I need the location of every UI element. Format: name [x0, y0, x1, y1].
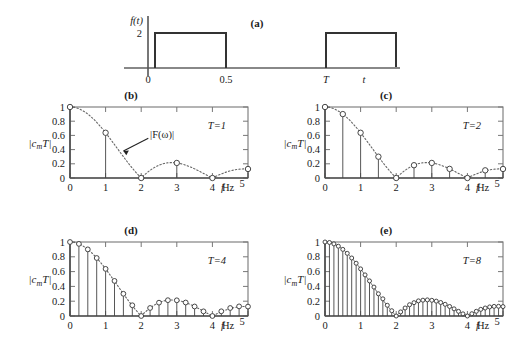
panel-c-xtick-label: 0 [322, 182, 327, 193]
panel-d-ytick-label: 0 [60, 311, 65, 322]
panel-e-ylabel: |cmT| [284, 273, 307, 288]
panel-a-xtick-T: T [323, 74, 330, 85]
panel-d-data-point [201, 309, 206, 314]
envelope-callout-arrowhead [123, 151, 128, 156]
panel-e-xtick-label: 3 [429, 320, 434, 331]
panel-a-amplitude-label: 2 [137, 28, 142, 39]
panel-e-data-point [430, 298, 434, 302]
panel-e-data-point [425, 298, 429, 302]
panel-e-data-point [408, 303, 412, 307]
panel-c-data-point [483, 168, 488, 173]
panel-e-data-point [385, 303, 389, 307]
panel-b-ylabel: |cmT| [29, 137, 52, 152]
panel-c-label: (c) [380, 89, 393, 102]
panel-e-data-point [465, 314, 469, 318]
panel-b-data-point [139, 175, 144, 180]
panel-c-xtick-label-5: 5 [494, 178, 499, 189]
panel-e-data-point [457, 309, 461, 313]
panel-d-data-point [219, 309, 224, 314]
panel-c-xtick-label: 1 [358, 182, 363, 193]
panel-a-xtick-0: 0 [145, 74, 150, 85]
panel-b-xaxis-unit: Hz [222, 182, 235, 193]
panel-a-pulse-second [326, 33, 396, 68]
panel-d-data-point [77, 241, 82, 246]
panel-e-xtick-label-5: 5 [494, 316, 499, 327]
panel-a-xtick-0p5: 0.5 [219, 74, 232, 85]
panel-e-data-point [332, 242, 336, 246]
panel-c-data-point [465, 175, 470, 180]
panel-b-data-point [210, 175, 215, 180]
panel-e-data-point [461, 312, 465, 316]
panel-b-ytick-label: 0 [60, 173, 65, 184]
panel-e-data-point [483, 306, 487, 310]
panel-d-data-point [148, 306, 153, 311]
panel-b-xtick-label: 2 [139, 182, 144, 193]
panel-e-xtick-label: 0 [322, 320, 327, 331]
panel-c-data-point [358, 130, 363, 135]
panel-b-ytick-label: 0.4 [52, 144, 66, 155]
panel-a-ylabel: f(t) [130, 15, 143, 27]
panel-c-xtick-label: 4 [465, 182, 471, 193]
panel-d-data-point [112, 279, 117, 284]
panel-b-ytick-label: 0.8 [52, 116, 65, 127]
panel-e-data-point [372, 285, 376, 289]
panel-c-data-point [340, 111, 345, 116]
panel-b-ytick-label: 0.2 [52, 158, 65, 169]
panel-c-data-point [500, 166, 505, 171]
panel-e-ytick-label: 0.8 [307, 251, 320, 262]
panel-e-data-point [376, 292, 380, 296]
panel-c-ytick-label: 1 [315, 102, 320, 113]
panel-d-ytick-label: 0.4 [52, 281, 66, 292]
panel-d-data-point [103, 266, 108, 271]
panel-e-data-point [327, 240, 331, 244]
panel-b-data-point [67, 104, 72, 109]
panel-e-data-point [421, 298, 425, 302]
panel-d-label: (d) [124, 224, 138, 237]
panel-e-data-point [501, 305, 505, 309]
panel-d-data-point [166, 298, 171, 303]
panel-a-label: (a) [251, 17, 264, 30]
panel-b-data-point [174, 160, 179, 165]
panel-d-ytick-label: 0.2 [52, 296, 65, 307]
panel-e-data-point [416, 299, 420, 303]
panel-d-ytick-label: 1 [60, 237, 65, 248]
panel-e-data-point [368, 279, 372, 283]
panel-c-xaxis-unit: Hz [477, 182, 490, 193]
panel-e-data-point [381, 297, 385, 301]
panel-b-xtick-label: 4 [210, 182, 216, 193]
panel-e-xtick-label: 2 [394, 320, 399, 331]
panel-e-xtick-label: 1 [358, 320, 363, 331]
panel-d-data-point [68, 240, 73, 245]
panel-c-ytick-label: 0 [315, 173, 320, 184]
panel-e-data-point [336, 244, 340, 248]
panel-e-data-point [390, 309, 394, 313]
panel-c-ylabel: |cmT| [284, 137, 307, 152]
panel-e-data-point [394, 314, 398, 318]
panel-c-ytick-label: 0.6 [307, 130, 320, 141]
panel-e-data-point [439, 301, 443, 305]
panel-c-data-point [447, 166, 452, 171]
panel-c-data-point [411, 163, 416, 168]
panel-d-data-point [192, 304, 197, 309]
panel-e-ytick-label: 0 [315, 311, 320, 322]
panel-c-data-point [429, 160, 434, 165]
panel-e-data-point [470, 312, 474, 316]
panel-d-data-point [130, 303, 135, 308]
panel-e-data-point [323, 240, 327, 244]
panel-a-xaxis-symbol: t [363, 74, 367, 85]
envelope-callout-label: |F(ω)| [150, 129, 174, 141]
panel-b-period-annotation: T=1 [208, 120, 226, 131]
panel-b-data-point [245, 166, 250, 171]
panel-d-data-point [228, 306, 233, 311]
panel-d-xtick-label: 3 [174, 320, 179, 331]
panel-d-data-point [246, 304, 251, 309]
panel-d-data-point [210, 314, 215, 319]
envelope-callout-line [123, 138, 148, 151]
panel-b-ytick-label: 1 [60, 102, 65, 113]
panel-e-data-point [403, 306, 407, 310]
panel-d-data-point [94, 256, 99, 261]
panel-d-xtick-label: 4 [210, 320, 216, 331]
panel-e-data-point [363, 273, 367, 277]
panel-d-data-point [139, 314, 144, 319]
panel-d-data-point [121, 291, 126, 296]
